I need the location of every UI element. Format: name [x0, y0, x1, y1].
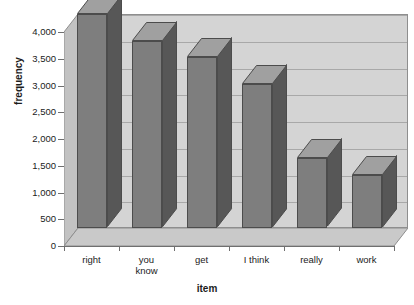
- bar[interactable]: [77, 14, 107, 228]
- y-tick-label: 500: [22, 214, 56, 224]
- bar[interactable]: [297, 158, 327, 228]
- y-tick-label: 2,000: [22, 134, 56, 144]
- bar-top-face: [242, 65, 288, 85]
- x-tick-label: youknow: [119, 254, 174, 276]
- x-tick-mark: [229, 246, 230, 251]
- bar-side-face: [107, 0, 123, 228]
- x-tick-label: really: [284, 254, 339, 265]
- bar[interactable]: [187, 57, 217, 228]
- bar-chart-figure: frequency 05001,0001,5002,0002,5003,0003…: [0, 0, 414, 305]
- x-tick-label: I think: [229, 254, 284, 265]
- y-tick-label: 3,000: [22, 81, 56, 91]
- bar-top-face: [77, 0, 123, 15]
- y-tick-label: 1,500: [22, 161, 56, 171]
- x-tick-label-line: I think: [229, 254, 284, 265]
- x-tick-label-line: work: [339, 254, 394, 265]
- y-tick-label: 0: [22, 241, 56, 251]
- bar-front-face: [297, 158, 327, 228]
- bars-layer: [64, 14, 408, 246]
- bar[interactable]: [352, 175, 382, 229]
- bar-front-face: [132, 41, 162, 228]
- bar[interactable]: [242, 84, 272, 228]
- bar-top-face: [132, 22, 178, 42]
- plot-area: [64, 14, 408, 246]
- x-tick-label-line: know: [119, 265, 174, 276]
- y-tick-label: 2,500: [22, 107, 56, 117]
- x-tick-mark: [64, 246, 65, 251]
- bar-side-face: [272, 64, 288, 228]
- bar-front-face: [77, 14, 107, 228]
- bar[interactable]: [132, 41, 162, 228]
- x-tick-mark: [119, 246, 120, 251]
- x-tick-label-line: right: [64, 254, 119, 265]
- bar-side-face: [217, 37, 233, 228]
- x-axis-title: item: [0, 283, 414, 294]
- x-tick-label-line: you: [119, 254, 174, 265]
- x-tick-label: right: [64, 254, 119, 265]
- y-axis-tick-labels: 05001,0001,5002,0002,5003,0003,5004,000: [20, 0, 56, 305]
- bar-side-face: [162, 21, 178, 228]
- x-tick-label-line: get: [174, 254, 229, 265]
- y-tick-label: 3,500: [22, 54, 56, 64]
- x-tick-mark: [339, 246, 340, 251]
- x-tick-mark: [174, 246, 175, 251]
- x-tick-label: work: [339, 254, 394, 265]
- y-tick-label: 1,000: [22, 188, 56, 198]
- bar-front-face: [242, 84, 272, 228]
- x-tick-mark: [394, 246, 395, 251]
- y-tick-label: 4,000: [22, 27, 56, 37]
- x-tick-label: get: [174, 254, 229, 265]
- bar-front-face: [352, 175, 382, 229]
- bar-top-face: [297, 139, 343, 159]
- x-tick-mark: [284, 246, 285, 251]
- bar-top-face: [187, 38, 233, 58]
- x-tick-label-line: really: [284, 254, 339, 265]
- bar-top-face: [352, 156, 398, 176]
- bar-front-face: [187, 57, 217, 228]
